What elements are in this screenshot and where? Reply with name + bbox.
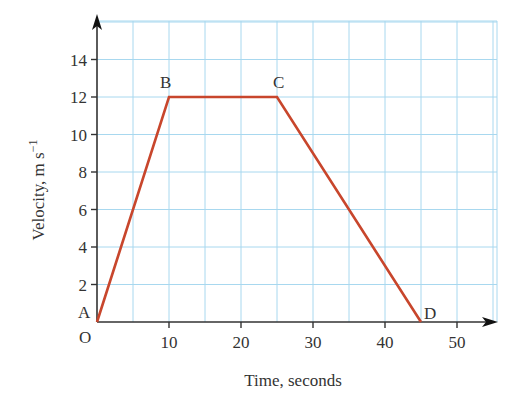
axes: [92, 14, 498, 327]
y-tick-label: 10: [70, 126, 87, 145]
origin-label: O: [79, 328, 91, 347]
point-labels: ABCD: [78, 73, 436, 323]
point-label-c: C: [273, 73, 284, 92]
x-tick-label: 50: [449, 333, 466, 352]
y-tick-label: 2: [79, 276, 88, 295]
y-tick-label: 4: [79, 238, 88, 257]
x-tick-label: 40: [377, 333, 394, 352]
velocity-time-chart: 10203040502468101214 ABCD O Time, second…: [0, 0, 508, 403]
point-label-d: D: [424, 304, 436, 323]
y-axis-title: Velocity, m s−1: [26, 140, 48, 241]
y-tick-label: 8: [79, 163, 88, 182]
y-tick-label: 6: [79, 201, 88, 220]
y-tick-label: 12: [70, 88, 87, 107]
grid: [97, 21, 497, 322]
x-tick-label: 30: [305, 333, 322, 352]
y-axis-title-superscript: −1: [26, 140, 40, 153]
y-axis-title-text: Velocity, m s: [29, 152, 48, 240]
y-tick-label: 14: [70, 51, 88, 70]
x-tick-label: 10: [161, 333, 178, 352]
point-label-b: B: [160, 73, 171, 92]
x-axis-title: Time, seconds: [244, 371, 342, 390]
x-tick-label: 20: [233, 333, 250, 352]
point-label-a: A: [78, 303, 91, 322]
